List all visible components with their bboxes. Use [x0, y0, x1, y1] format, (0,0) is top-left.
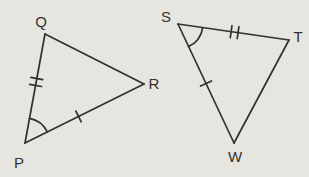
vertex-label-P: P — [14, 154, 24, 171]
vertex-label-W: W — [228, 148, 243, 165]
side-ST — [178, 24, 289, 40]
geometry-diagram: PQRSTW — [0, 0, 309, 177]
angle-arc-P — [30, 118, 48, 131]
triangle-STW: STW — [161, 8, 303, 165]
side-QR — [45, 34, 144, 84]
side-TW — [234, 40, 289, 143]
tick-mark-ST — [230, 26, 232, 38]
vertex-label-S: S — [161, 8, 171, 25]
side-PR — [25, 84, 144, 143]
tick-mark-PQ — [31, 77, 43, 79]
vertex-label-R: R — [149, 75, 160, 92]
tick-mark-PQ — [30, 84, 42, 86]
tick-mark-ST — [237, 27, 239, 39]
triangles-svg: PQRSTW — [0, 0, 309, 177]
vertex-label-T: T — [293, 28, 302, 45]
vertex-label-Q: Q — [35, 13, 47, 30]
side-PQ — [25, 34, 45, 143]
triangle-PQR: PQR — [14, 13, 160, 171]
angle-arc-S — [189, 28, 203, 47]
